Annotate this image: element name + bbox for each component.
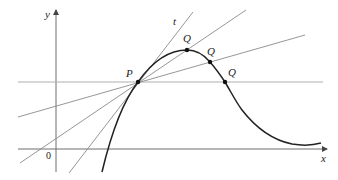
point-q3-label: Q xyxy=(228,67,236,78)
point-q3 xyxy=(223,80,227,84)
tangent-label: t xyxy=(173,16,176,27)
point-q2 xyxy=(208,60,212,64)
point-q2-label: Q xyxy=(207,46,215,57)
point-p-label: P xyxy=(126,68,133,79)
secant-line-pq2 xyxy=(18,35,305,117)
function-curve xyxy=(102,50,321,172)
point-q1-label: Q xyxy=(183,33,191,44)
secant-tangent-diagram: y x 0 P Q Q Q t xyxy=(0,0,338,180)
secant-line-pq1 xyxy=(20,10,246,163)
point-q1 xyxy=(185,48,189,52)
origin-label: 0 xyxy=(46,151,51,161)
y-axis-label: y xyxy=(45,9,50,20)
point-p xyxy=(136,80,140,84)
x-axis-label: x xyxy=(321,153,326,164)
